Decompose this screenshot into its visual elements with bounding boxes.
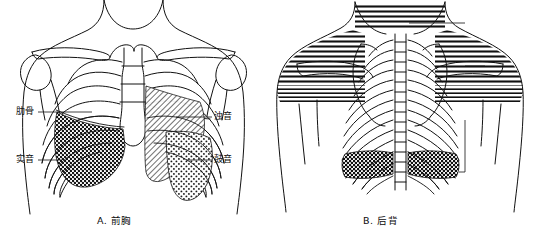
panel-anterior-chest: 肋骨 实音 浊音 鼓音	[0, 0, 269, 236]
zone-flat-posterior	[277, 86, 523, 104]
label-flat-sound-anterior: 实音	[16, 154, 35, 165]
label-rib: 肋骨	[16, 106, 35, 117]
label-dull-sound-anterior: 浊音	[214, 111, 233, 122]
zone-diaphragm-excursion	[342, 151, 459, 179]
label-tympanic-sound-anterior: 鼓音	[214, 154, 233, 165]
panel-posterior-back: 清音 实音 肺下界 移动范围	[269, 0, 538, 236]
caption-panel-a: A. 前胸	[97, 213, 132, 227]
zone-flat-sound-anterior	[55, 112, 125, 187]
figure-root: 肋骨 实音 浊音 鼓音	[0, 0, 538, 236]
posterior-back-illustration	[269, 0, 538, 236]
caption-panel-b: B. 后背	[363, 213, 398, 227]
